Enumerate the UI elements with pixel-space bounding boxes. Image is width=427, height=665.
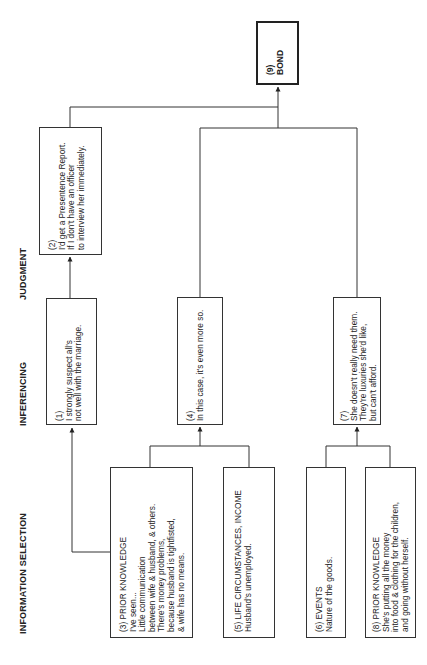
node-5-text: Husband's unemployed. <box>244 490 254 632</box>
column-heading-inferencing: INFERENCING <box>18 360 30 426</box>
node-4-text: In this case, it's even more so. <box>196 310 206 421</box>
node-7-text: but can't afford. <box>369 311 379 421</box>
column-heading-judgment: JUDGMENT <box>18 250 30 300</box>
node-4-inference: (4) In this case, it's even more so. <box>177 297 223 425</box>
node-1-inference: (1) I strongly suspect all's not well wi… <box>46 298 97 425</box>
judgment-label: JUDGMENT <box>18 248 28 300</box>
node-6-events: (6) EVENTS Nature of the goods. <box>306 467 346 638</box>
node-7-inference: (7) She doesn't really need them. They'r… <box>333 297 381 425</box>
node-8-text: and going without herself. <box>401 502 411 632</box>
bond-label: BOND <box>276 50 286 75</box>
node-8-prior-knowledge: (8) PRIOR KNOWLEDGE She's putting all th… <box>365 467 416 638</box>
node-3-prior-knowledge: (3) PRIOR KNOWLEDGE I've seen... Little … <box>110 467 193 638</box>
column-heading-information-selection: INFORMATION SELECTION <box>18 510 30 634</box>
node-6-text: Nature of the goods. <box>325 557 335 632</box>
node-3-text: & wife has no means. <box>177 504 187 632</box>
inferencing-label: INFERENCING <box>18 362 28 426</box>
node-1-text: not well with the marriage. <box>74 325 84 421</box>
node-2-text: to interview her immediately. <box>77 142 87 250</box>
node-5-life-circumstances: (5) LIFE CIRCUMSTANCES, INCOME Husband's… <box>223 467 275 638</box>
information-selection-label: INFORMATION SELECTION <box>18 513 28 634</box>
node-bond: (9) BOND <box>256 21 299 85</box>
node-2-judgment: (2) I'd get a Presentence Report. If I d… <box>39 127 102 255</box>
decision-flow-diagram: JUDGMENT INFERENCING INFORMATION SELECTI… <box>0 0 427 665</box>
